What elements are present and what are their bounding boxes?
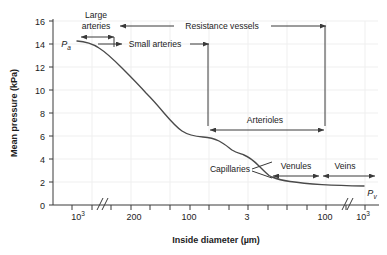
y-tick-label: 10 [35, 86, 45, 96]
veins-label: Veins [334, 161, 355, 171]
y-tick-label: 14 [35, 40, 45, 50]
capillaries-label: Capillaries [210, 164, 250, 174]
x-tick-label-3: 3 [244, 212, 249, 222]
chart-svg: 16 14 12 10 8 6 4 2 0 Mean pressure (kPa… [0, 0, 387, 255]
y-tick-label: 16 [35, 17, 45, 27]
x-axis-title: Inside diameter (µm) [172, 235, 260, 245]
y-axis-title: Mean pressure (kPa) [9, 69, 19, 157]
y-tick-label: 12 [35, 63, 45, 73]
small-arteries-label: Small arteries [129, 39, 182, 49]
large-arteries-label-line1: Large [85, 10, 107, 20]
y-tick-label: 6 [40, 132, 45, 142]
venules-label: Venules [281, 161, 312, 171]
y-tick-label: 2 [40, 178, 45, 188]
x-tick-label-100a: 100 [181, 212, 196, 222]
arterioles-label: Arterioles [247, 115, 283, 125]
y-tick-label: 0 [40, 201, 45, 211]
resistance-vessels-label: Resistance vessels [185, 21, 259, 31]
x-tick-label-200: 200 [126, 212, 141, 222]
y-tick-label: 8 [40, 109, 45, 119]
y-tick-label: 4 [40, 155, 45, 165]
large-arteries-label-line2: arteries [82, 21, 111, 31]
x-tick-label-100b: 100 [317, 212, 332, 222]
pressure-diameter-chart: 16 14 12 10 8 6 4 2 0 Mean pressure (kPa… [0, 0, 387, 255]
